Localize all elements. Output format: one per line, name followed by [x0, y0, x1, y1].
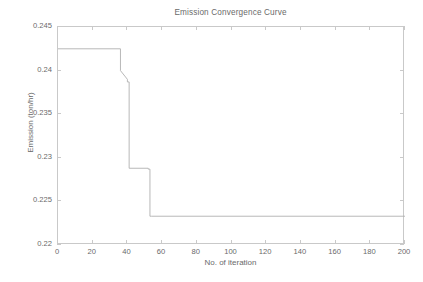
y-axis-label: Emission (ton/hr) — [26, 63, 35, 183]
x-tick-label: 120 — [250, 247, 280, 256]
x-tick-label: 180 — [354, 247, 384, 256]
y-tick-label: 0.23 — [6, 152, 52, 161]
x-tick-label: 100 — [216, 247, 246, 256]
y-tick-label: 0.24 — [6, 65, 52, 74]
chart-title: Emission Convergence Curve — [57, 8, 404, 17]
y-tick-label: 0.245 — [6, 21, 52, 30]
y-axis-label-container: Emission (ton/hr) — [14, 26, 32, 244]
x-tick-label: 20 — [77, 247, 107, 256]
x-axis-label: No. of iteration — [57, 258, 404, 267]
x-tick-label: 160 — [320, 247, 350, 256]
x-tick-label: 0 — [42, 247, 72, 256]
x-tick-label: 140 — [285, 247, 315, 256]
y-tick-label: 0.225 — [6, 195, 52, 204]
y-tick-label: 0.235 — [6, 108, 52, 117]
plot-area — [57, 26, 404, 244]
emission-curve — [58, 27, 405, 245]
emission-convergence-chart: Emission Convergence Curve Emission (ton… — [0, 0, 423, 282]
x-tick-label: 40 — [111, 247, 141, 256]
x-tick-label: 60 — [146, 247, 176, 256]
emission-series-line — [58, 49, 405, 216]
x-tick-label: 200 — [389, 247, 419, 256]
x-tick-label: 80 — [181, 247, 211, 256]
